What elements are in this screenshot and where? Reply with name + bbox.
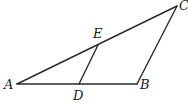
label-e: E bbox=[92, 26, 103, 41]
label-b: B bbox=[139, 77, 150, 92]
triangle-diagram: A B C D E bbox=[0, 0, 188, 103]
segment-bc bbox=[137, 6, 177, 84]
label-a: A bbox=[3, 77, 13, 92]
segment-de bbox=[79, 45, 98, 84]
segment-ac bbox=[17, 6, 177, 84]
label-d: D bbox=[72, 88, 84, 103]
label-c: C bbox=[179, 0, 188, 13]
